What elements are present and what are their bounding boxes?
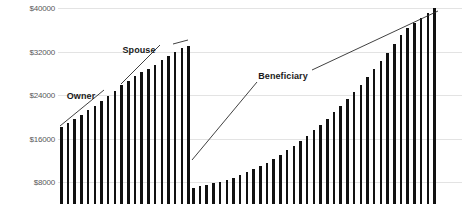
- annotations-group: OwnerSpouseBeneficiary: [0, 0, 462, 204]
- annotation-label-spouse: Spouse: [122, 45, 155, 55]
- annotation-label-owner: Owner: [67, 91, 96, 101]
- chart-container: $40000$32000$24000$16000$8000 OwnerSpous…: [0, 0, 462, 204]
- annotation-label-beneficiary: Beneficiary: [258, 71, 308, 81]
